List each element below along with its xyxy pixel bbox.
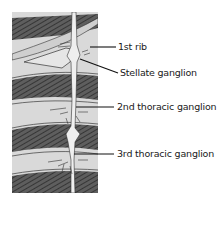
label-third-thoracic-ganglion: 3rd thoracic ganglion	[117, 148, 214, 159]
label-second-thoracic-ganglion: 2nd thoracic ganglion	[117, 101, 216, 112]
rib-band-2	[12, 74, 98, 100]
rib-band-4	[12, 171, 98, 193]
label-stellate-ganglion: Stellate ganglion	[120, 67, 197, 78]
label-first-rib: 1st rib	[118, 41, 147, 52]
